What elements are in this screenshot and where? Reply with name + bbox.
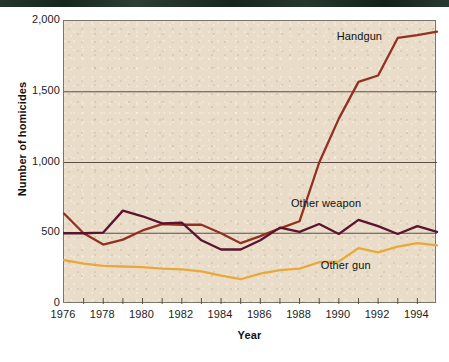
y-tick-label-2000: 2,000	[2, 13, 60, 25]
top-band-texture	[0, 0, 449, 7]
x-axis-tick-labels: 1976197819801982198419861988199019921994	[63, 308, 436, 324]
series-label-other-weapon: Other weapon	[291, 197, 361, 209]
x-tick-label-1994: 1994	[393, 308, 439, 320]
series-line-other-gun	[64, 243, 437, 279]
y-tick-label-1000: 1,000	[2, 155, 60, 167]
plot-area	[63, 20, 436, 303]
gridlines-group	[64, 92, 437, 234]
y-axis-title: Number of homicides	[16, 59, 28, 219]
x-axis-title: Year	[63, 329, 436, 341]
series-label-handgun: Handgun	[337, 30, 382, 42]
y-axis-tick-labels: 2,0001,5001,0005000	[0, 20, 60, 303]
series-line-other-weapon	[64, 211, 437, 250]
y-tick-label-1500: 1,500	[2, 84, 60, 96]
y-tick-label-0: 0	[2, 296, 60, 308]
data-series-group	[64, 32, 437, 280]
chart-canvas	[64, 21, 437, 304]
series-label-other-gun: Other gun	[321, 259, 371, 271]
x-axis-tick-marks	[84, 298, 418, 304]
y-tick-label-500: 500	[2, 225, 60, 237]
line-chart-figure: 2,0001,5001,0005000 19761978198019821984…	[0, 7, 449, 362]
top-decorative-band	[0, 0, 449, 7]
